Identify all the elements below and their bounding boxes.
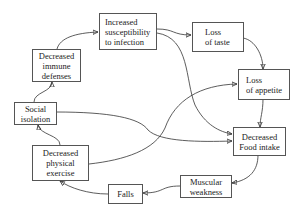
node-text-line: Social [21,104,50,114]
node-muscular-weakness: Muscular weakness [180,175,232,198]
edge-taste-to-appetite [243,38,263,69]
edge-social-to-food [56,112,232,141]
node-text-line: of appetite [246,85,282,95]
edge-appetite-to-food [260,99,263,127]
node-text-line: immune [39,61,74,71]
node-decreased-physical-exercise: Decreased physical exercise [32,145,89,181]
node-text-line: Loss [205,27,230,37]
node-text-line: defenses [39,71,74,81]
node-loss-of-taste: Loss of taste [192,22,244,52]
node-text-line: Decreased [39,51,74,61]
node-text-line: physical [43,158,78,168]
node-text-line: of taste [205,37,230,47]
node-text-line: exercise [43,168,78,178]
edge-food-to-muscular [232,155,258,183]
node-text-line: susceptibility [105,27,150,37]
node-text-line: Falls [117,189,134,199]
edge-falls-to-exercise [60,181,108,194]
node-text-line: Decreased [239,132,279,142]
node-text-line: Decreased [43,148,78,158]
node-text-line: to infection [105,37,150,47]
node-loss-of-appetite: Loss of appetite [238,69,290,100]
edge-exercise-to-appetite [89,84,237,164]
node-text-line: Muscular [190,177,223,187]
node-increased-susceptibility: Increased susceptibility to infection [99,13,157,50]
node-text-line: Loss [246,75,282,85]
node-decreased-food-intake: Decreased Food intake [233,127,286,156]
edge-exercise-to-social [38,125,60,145]
edge-immune-to-susceptibility [57,32,98,49]
node-falls: Falls [108,184,143,204]
node-social-isolation: Social isolation [14,102,57,125]
node-text-line: Food intake [239,142,279,152]
edge-social-to-immune [34,82,52,102]
node-text-line: isolation [21,114,50,124]
node-text-line: Increased [105,17,150,27]
node-text-line: weakness [190,187,223,197]
node-decreased-immune-defenses: Decreased immune defenses [32,49,81,82]
edge-muscular-to-falls [143,186,180,193]
